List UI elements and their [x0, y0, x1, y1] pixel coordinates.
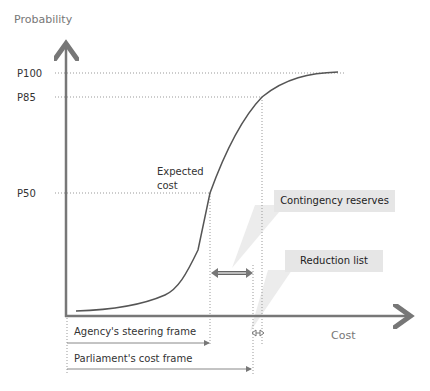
level-p50: P50 [17, 188, 36, 200]
level-p85: P85 [17, 92, 36, 104]
contingency-pointer [232, 205, 285, 268]
parliament-cost-frame-label: Parliament's cost frame [74, 353, 192, 365]
x-axis-label: Cost [331, 330, 355, 342]
y-axis-label: Probability [14, 14, 72, 26]
level-p100: P100 [17, 68, 42, 80]
contingency-double-arrow [211, 268, 253, 278]
reduction-pointer [250, 270, 292, 332]
expected-cost-label-line2: cost [157, 180, 178, 192]
expected-cost-label-line1: Expected [157, 166, 204, 178]
contingency-reserves-callout: Contingency reserves [274, 190, 395, 212]
reduction-double-arrow [252, 330, 264, 336]
reduction-list-callout: Reduction list [285, 250, 383, 272]
agency-steering-frame-label: Agency's steering frame [74, 326, 196, 338]
